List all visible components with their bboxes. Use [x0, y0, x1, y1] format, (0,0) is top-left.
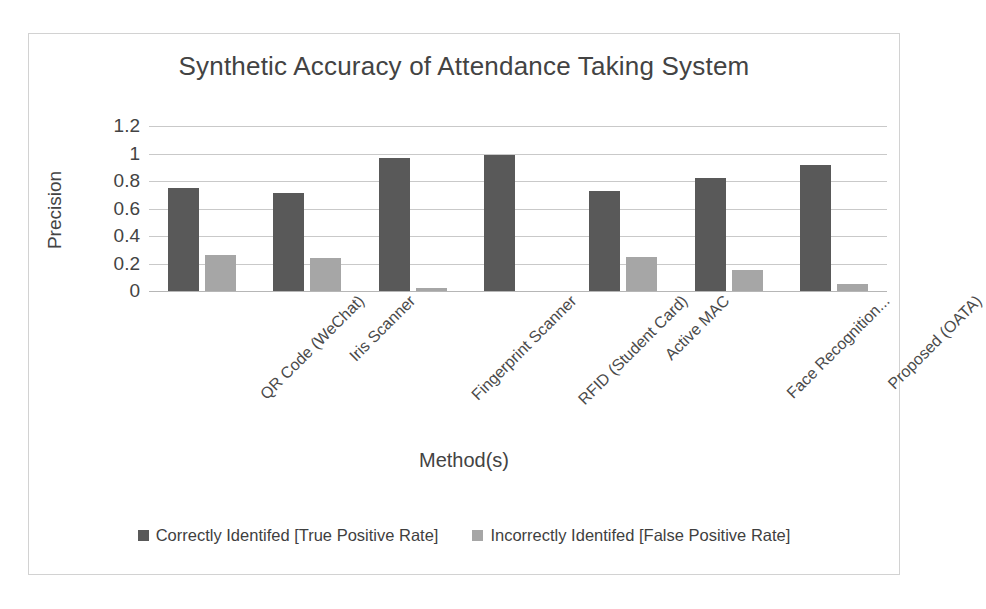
bar-group — [465, 126, 570, 291]
bar[interactable] — [205, 255, 236, 291]
legend-item[interactable]: Incorrectly Identifed [False Positive Ra… — [472, 526, 790, 545]
x-axis-category-label: Proposed (OATA) — [885, 292, 986, 393]
bar[interactable] — [273, 193, 304, 291]
bar[interactable] — [695, 178, 726, 291]
chart-title: Synthetic Accuracy of Attendance Taking … — [29, 51, 899, 82]
y-axis-tick-label: 0.6 — [114, 197, 140, 219]
legend-swatch-icon — [472, 530, 483, 541]
bar[interactable] — [416, 288, 447, 291]
bar-group — [149, 126, 254, 291]
y-axis-tick-label: 0.4 — [114, 225, 140, 247]
y-axis-tick-label: 0.8 — [114, 170, 140, 192]
y-axis-tick-label: 1.2 — [114, 115, 140, 137]
y-axis-tick-label: 0 — [129, 280, 140, 302]
bar[interactable] — [626, 257, 657, 291]
bar-group — [254, 126, 359, 291]
bars-layer — [149, 126, 887, 291]
bar[interactable] — [310, 258, 341, 291]
y-axis-tick-label: 0.2 — [114, 252, 140, 274]
x-axis-category-label: Fingerprint Scanner — [468, 292, 580, 404]
bar-group — [782, 126, 887, 291]
bar[interactable] — [379, 158, 410, 291]
chart-legend: Correctly Identifed [True Positive Rate]… — [29, 526, 899, 545]
y-axis-title: Precision — [44, 140, 66, 280]
legend-label: Incorrectly Identifed [False Positive Ra… — [490, 526, 790, 545]
y-axis-tick-label: 1 — [129, 142, 140, 164]
plot-area: 1.210.80.60.40.20 — [149, 126, 887, 291]
bar[interactable] — [589, 191, 620, 291]
bar[interactable] — [168, 188, 199, 291]
bar[interactable] — [732, 270, 763, 291]
x-axis-category-labels: QR Code (WeChat)Iris ScannerFingerprint … — [149, 292, 887, 442]
bar-group — [360, 126, 465, 291]
bar[interactable] — [800, 165, 831, 292]
bar-group — [676, 126, 781, 291]
legend-swatch-icon — [138, 530, 149, 541]
bar-group — [571, 126, 676, 291]
bar[interactable] — [484, 155, 515, 291]
x-axis-category-label: Face Recognition... — [783, 292, 893, 402]
legend-item[interactable]: Correctly Identifed [True Positive Rate] — [138, 526, 439, 545]
bar[interactable] — [837, 284, 868, 291]
chart-frame: Synthetic Accuracy of Attendance Taking … — [28, 33, 900, 575]
legend-label: Correctly Identifed [True Positive Rate] — [156, 526, 439, 545]
x-axis-title: Method(s) — [29, 449, 899, 472]
